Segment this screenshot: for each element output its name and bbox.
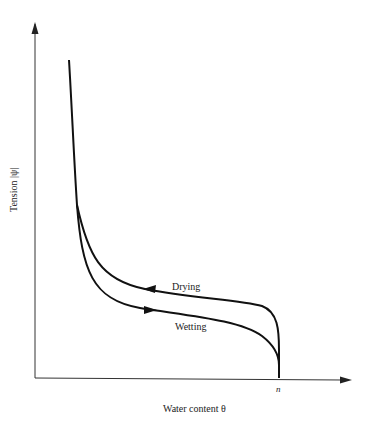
x-axis-arrow-icon xyxy=(340,377,352,384)
wetting-arrow-icon xyxy=(144,306,157,314)
x-tick-n: n xyxy=(276,384,281,394)
y-axis-arrow-icon xyxy=(32,22,39,34)
drying-label: Drying xyxy=(172,281,200,292)
y-axis-label: Tension |ψ| xyxy=(8,168,19,212)
hysteresis-chart xyxy=(0,0,367,422)
x-axis-label: Water content θ xyxy=(163,403,226,414)
x-axis xyxy=(35,378,342,380)
wetting-label: Wetting xyxy=(175,321,206,332)
curve-shared xyxy=(69,60,77,205)
drying-arrow-icon xyxy=(143,285,156,293)
